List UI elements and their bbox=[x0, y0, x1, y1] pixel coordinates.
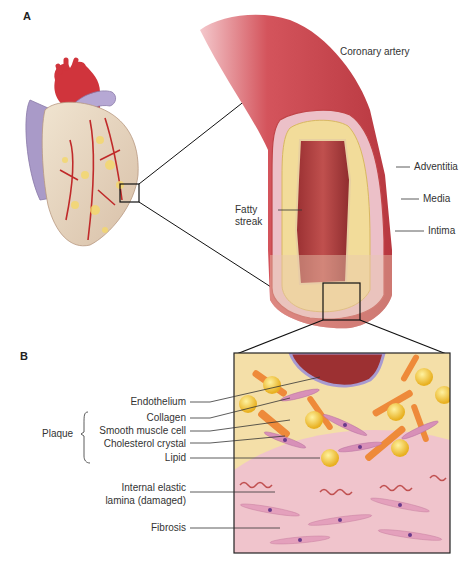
fatty-streak-label-line1: Fatty bbox=[235, 204, 257, 216]
internal-elastic-lamina-label-line2: lamina (damaged) bbox=[105, 495, 186, 507]
adventitia-label: Adventitia bbox=[414, 161, 458, 173]
collagen-label: Collagen bbox=[147, 412, 186, 424]
media-label: Media bbox=[423, 193, 450, 205]
fatty-streak-label-line2: streak bbox=[235, 216, 262, 228]
fibrosis-label: Fibrosis bbox=[151, 522, 186, 534]
connector-line bbox=[139, 100, 246, 184]
plaque-detail-illustration bbox=[234, 353, 453, 553]
lipid-label: Lipid bbox=[165, 452, 186, 464]
coronary-artery-illustration bbox=[200, 15, 392, 328]
cholesterol-crystal-label: Cholesterol crystal bbox=[104, 438, 186, 450]
heart-illustration bbox=[26, 60, 139, 246]
coronary-artery-label: Coronary artery bbox=[340, 46, 409, 58]
panel-a-letter: A bbox=[23, 10, 31, 22]
intima-label: Intima bbox=[428, 225, 455, 237]
illustration bbox=[0, 0, 469, 561]
smooth-muscle-cell-label: Smooth muscle cell bbox=[99, 425, 186, 437]
internal-elastic-lamina-label-line1: Internal elastic bbox=[122, 482, 186, 494]
endothelium-label: Endothelium bbox=[130, 396, 186, 408]
plaque-group-label: Plaque bbox=[42, 428, 73, 440]
panel-b-letter: B bbox=[20, 350, 28, 362]
